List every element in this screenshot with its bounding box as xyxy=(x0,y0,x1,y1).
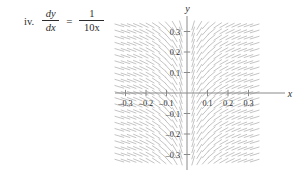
slope-segment xyxy=(202,139,208,146)
x-tick-label: 0.2 xyxy=(223,99,233,108)
slope-segment xyxy=(202,114,208,121)
fraction-bar xyxy=(79,20,104,21)
slope-segment xyxy=(202,40,208,47)
slope-segment xyxy=(202,120,208,127)
slope-segment xyxy=(202,145,208,152)
y-axis-label: y xyxy=(184,4,190,14)
x-tick-label: 0.1 xyxy=(202,99,212,108)
equals-sign: = xyxy=(66,14,72,27)
slope-segment xyxy=(165,77,171,84)
slope-segment xyxy=(202,22,208,29)
slope-segment xyxy=(165,120,171,127)
figure-container: iv. dy dx = 1 10x –0.3–0.2–0.10.10.20.30… xyxy=(0,0,295,190)
slope-segment xyxy=(202,59,208,66)
problem-index-label: iv. xyxy=(24,14,34,27)
x-tick-label: 0.3 xyxy=(243,99,253,108)
x-axis-label: x xyxy=(287,88,293,99)
slope-segment xyxy=(165,139,171,146)
x-tick-label: –0.2 xyxy=(138,99,153,108)
derivative-denominator: dx xyxy=(43,22,59,33)
y-tick-label: 0.3 xyxy=(170,28,180,37)
slope-segment xyxy=(202,108,208,115)
slope-segment xyxy=(202,71,208,78)
y-tick-label: –0.2 xyxy=(165,130,180,139)
slope-segment xyxy=(165,40,171,47)
y-tick-label: –0.1 xyxy=(165,110,180,119)
slope-segment xyxy=(202,77,208,84)
x-tick-label: –0.3 xyxy=(117,99,132,108)
slope-segment xyxy=(165,83,171,90)
y-tick-label: 0.2 xyxy=(170,48,180,57)
slope-segment xyxy=(202,83,208,90)
slope-segment xyxy=(202,133,208,140)
slope-segment xyxy=(202,47,208,54)
rhs-fraction: 1 10x xyxy=(79,8,104,33)
slope-field-plot: –0.3–0.2–0.10.10.20.30.30.20.1–0.1–0.2–0… xyxy=(113,4,295,176)
slope-segment xyxy=(202,34,208,41)
slope-segment xyxy=(202,65,208,72)
rhs-denominator: 10x xyxy=(81,22,103,33)
slope-field-svg: –0.3–0.2–0.10.10.20.30.30.20.1–0.1–0.2–0… xyxy=(113,4,295,176)
slope-segment xyxy=(202,53,208,60)
derivative-numerator: dy xyxy=(43,8,59,19)
fraction-bar xyxy=(42,20,59,21)
slope-segment xyxy=(202,28,208,35)
problem-equation: iv. dy dx = 1 10x xyxy=(24,8,105,33)
y-tick-label: 0.1 xyxy=(170,69,180,78)
x-tick-label: –0.1 xyxy=(158,99,173,108)
slope-segment xyxy=(202,126,208,133)
rhs-numerator: 1 xyxy=(86,8,97,19)
derivative-fraction: dy dx xyxy=(42,8,59,33)
slope-segment xyxy=(165,59,171,66)
slope-segment xyxy=(202,157,208,164)
y-tick-label: –0.3 xyxy=(165,151,180,160)
slope-segment xyxy=(202,151,208,158)
